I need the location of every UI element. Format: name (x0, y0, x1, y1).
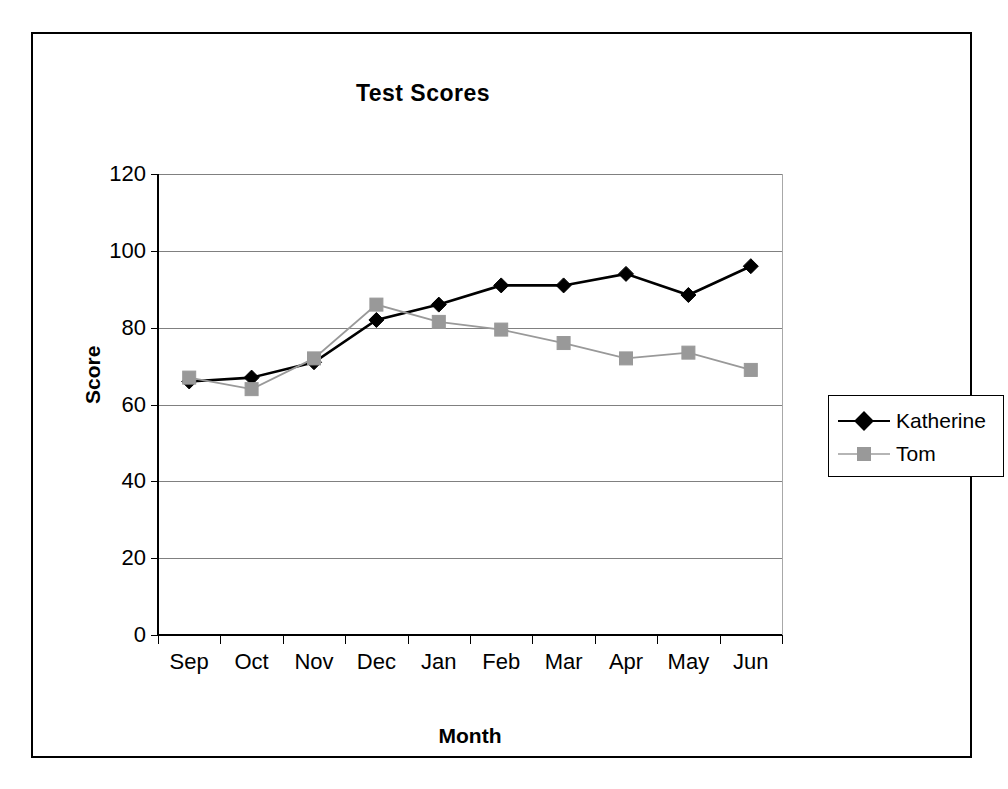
y-axis-tick-label: 60 (76, 392, 146, 418)
series-tom (183, 298, 758, 396)
data-point-marker (620, 352, 633, 365)
legend-diamond-icon (838, 412, 890, 430)
x-axis-tick (657, 635, 658, 644)
y-axis-tick-label: 0 (76, 622, 146, 648)
y-axis-tick-label: 80 (76, 315, 146, 341)
series-line (189, 305, 751, 390)
legend-label: Katherine (896, 409, 986, 433)
legend-square-icon (838, 445, 890, 463)
x-axis-tick (720, 635, 721, 644)
series-plot (158, 174, 782, 635)
x-axis-tick (220, 635, 221, 644)
x-axis-tick (595, 635, 596, 644)
x-axis-tick (408, 635, 409, 644)
x-axis-tick (345, 635, 346, 644)
data-point-marker (743, 259, 758, 274)
data-point-marker (744, 363, 757, 376)
series-katherine (182, 259, 759, 389)
x-axis-title: Month (158, 724, 782, 748)
chart-title: Test Scores (33, 80, 813, 107)
x-axis-tick-label: Jun (711, 649, 791, 675)
y-axis-tick-label: 40 (76, 468, 146, 494)
data-point-marker (682, 346, 695, 359)
data-point-marker (245, 383, 258, 396)
data-point-marker (494, 278, 509, 293)
chart-frame: Test Scores Score Month 020406080100120 … (31, 32, 972, 758)
data-point-marker (619, 266, 634, 281)
plot-area: 020406080100120 SepOctNovDecJanFebMarApr… (158, 174, 782, 635)
data-point-marker (556, 278, 571, 293)
x-axis-tick (283, 635, 284, 644)
data-point-marker (369, 312, 384, 327)
data-point-marker (495, 323, 508, 336)
x-axis-tick (782, 635, 783, 644)
data-point-marker (681, 288, 696, 303)
y-axis-tick-label: 20 (76, 545, 146, 571)
legend-label: Tom (896, 442, 936, 466)
data-point-marker (557, 337, 570, 350)
data-point-marker (183, 371, 196, 384)
data-point-marker (431, 297, 446, 312)
x-axis-tick (532, 635, 533, 644)
x-axis-tick (470, 635, 471, 644)
legend: Katherine Tom (828, 395, 1004, 477)
y-axis-tick-label: 120 (76, 161, 146, 187)
legend-item-katherine[interactable]: Katherine (829, 404, 1003, 437)
data-point-marker (308, 352, 321, 365)
data-point-marker (432, 315, 445, 328)
x-axis-tick (158, 635, 159, 644)
legend-item-tom[interactable]: Tom (829, 437, 1003, 470)
y-axis-tick-label: 100 (76, 238, 146, 264)
plot-right-border (782, 174, 783, 635)
data-point-marker (370, 298, 383, 311)
series-line (189, 266, 751, 381)
